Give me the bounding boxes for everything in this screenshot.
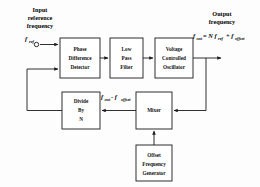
input-reference-frequency-title: Input reference frequency (27, 6, 54, 29)
block-pdd-line-1: Phase (74, 46, 88, 52)
output-title-line2: frequency (209, 18, 236, 25)
wire-divider-feedback-to-pdd (27, 69, 62, 111)
block-phase-difference-detector: Phase Difference Detector (60, 38, 100, 78)
output-eq-tail-sub: offset (235, 36, 245, 41)
input-signal-symbol: f ref (25, 35, 34, 44)
output-eq-mid: = N f (203, 32, 217, 39)
block-offset-frequency-generator: Offset Frequency Generator (136, 145, 172, 181)
input-symbol-sub: ref (29, 39, 34, 44)
block-pdd-line-2: Difference (69, 55, 93, 61)
block-divider-line-1: Divide (74, 98, 89, 104)
block-divider-line-3: N (79, 116, 83, 122)
output-eq-mid-sub: ref (218, 36, 223, 41)
output-eq-lhs-sub: out (197, 36, 203, 41)
input-title-line1: Input (33, 6, 49, 13)
input-symbol-base: f (25, 35, 28, 42)
block-divider-line-2: By (78, 107, 84, 113)
block-divide-by-n: Divide By N (62, 92, 100, 129)
input-title-line3: frequency (27, 22, 54, 29)
block-ofg-line-2: Frequency (142, 161, 166, 167)
input-terminal-node (34, 42, 38, 46)
feedback-minus: - f (111, 93, 118, 100)
feedback-sub1: out (105, 97, 111, 102)
block-vco-line-2: Controlled (162, 55, 186, 61)
pll-block-diagram-figure: Input reference frequency f ref Output f… (0, 0, 260, 187)
output-eq-plus: + f (226, 32, 234, 39)
block-ofg-line-3: Generator (142, 170, 166, 176)
diagram-canvas: Input reference frequency f ref Output f… (0, 0, 260, 187)
output-frequency-equation: f out = N f ref + f offset (193, 32, 245, 41)
input-title-line2: reference (28, 14, 53, 21)
block-low-pass-filter: Low Pass Filter (110, 38, 143, 78)
block-vco-line-1: Voltage (166, 46, 183, 52)
output-frequency-title: Output frequency (209, 10, 236, 25)
block-mixer: Mixer (136, 92, 172, 129)
feedback-sub2: offset (121, 97, 131, 102)
block-ofg-line-1: Offset (147, 152, 161, 158)
block-lpf-line-3: Filter (120, 64, 133, 70)
block-mixer-line-1: Mixer (147, 107, 161, 113)
block-voltage-controlled-oscillator: Voltage Controlled Oscillator (155, 38, 193, 78)
block-vco-line-3: Oscillator (163, 64, 186, 70)
feedback-signal-label: f out - f offset (101, 93, 131, 102)
block-pdd-line-3: Detector (70, 64, 90, 70)
block-lpf-line-2: Pass (122, 55, 132, 61)
block-lpf-line-1: Low (122, 46, 132, 52)
output-title-line1: Output (212, 10, 232, 17)
